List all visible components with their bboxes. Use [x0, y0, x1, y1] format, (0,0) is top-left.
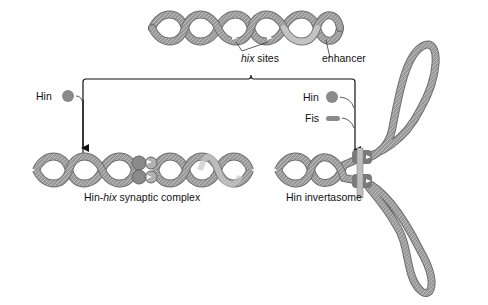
fis-protein-icon — [326, 116, 340, 121]
hix-sites-label: hix sites — [241, 53, 279, 64]
hin-tetramer — [132, 156, 157, 184]
hin-label-left: Hin — [36, 91, 52, 102]
hin-protein-icon-right — [326, 91, 338, 103]
synaptic-complex-label: Hin-hix synaptic complex — [84, 192, 200, 203]
hin-label-right: Hin — [303, 92, 319, 103]
hin-pointer — [76, 96, 83, 104]
top-dna-helix — [152, 15, 340, 42]
hin-protein-icon — [62, 90, 74, 102]
invertasome-label: Hin invertasome — [286, 192, 362, 203]
fis-pointer — [342, 118, 354, 128]
enhancer-label: enhancer — [322, 53, 366, 64]
hin-right-pointer — [340, 97, 354, 108]
fis-label: Fis — [305, 113, 319, 124]
hin-recombination-diagram — [0, 0, 488, 305]
